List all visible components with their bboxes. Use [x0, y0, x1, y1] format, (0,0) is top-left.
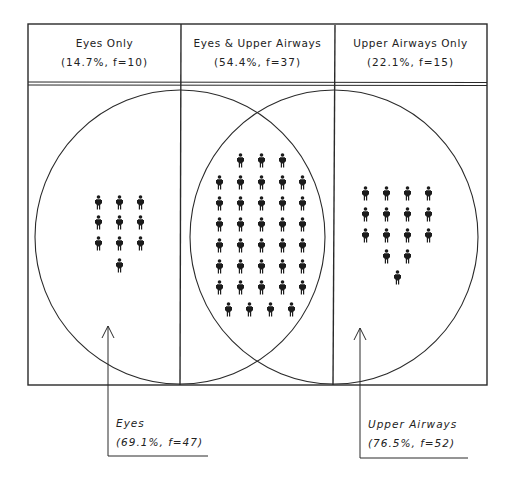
- header-stat: (14.7%, f=10): [28, 56, 181, 68]
- header-title: Eyes Only: [28, 37, 181, 49]
- person-icon: [237, 280, 244, 295]
- person-icon: [299, 259, 306, 274]
- person-icon: [299, 280, 306, 295]
- person-icon: [279, 196, 286, 211]
- person-icon: [279, 280, 286, 295]
- person-icon: [425, 186, 432, 201]
- person-icon: [258, 153, 265, 168]
- person-icon: [383, 186, 390, 201]
- person-icon: [279, 259, 286, 274]
- header-airways-only: Upper Airways Only (22.1%, f=15): [334, 24, 487, 82]
- person-icon: [279, 217, 286, 232]
- callout-label: Upper Airways: [368, 415, 457, 434]
- header-title: Eyes & Upper Airways: [181, 37, 334, 49]
- person-icon: [237, 238, 244, 253]
- person-icon: [279, 175, 286, 190]
- person-icon: [116, 195, 123, 210]
- person-icon: [237, 175, 244, 190]
- person-icon: [216, 238, 223, 253]
- person-icon: [394, 270, 401, 285]
- person-icon: [299, 196, 306, 211]
- person-icon: [299, 238, 306, 253]
- person-icon: [237, 259, 244, 274]
- header-stat: (22.1%, f=15): [334, 56, 487, 68]
- person-icon: [216, 280, 223, 295]
- callout-label: Eyes: [116, 414, 203, 433]
- eyes-callout: Eyes (69.1%, f=47): [116, 414, 203, 452]
- person-icon: [237, 217, 244, 232]
- person-icon: [95, 236, 102, 251]
- person-icon: [237, 153, 244, 168]
- person-icon: [216, 175, 223, 190]
- person-icon: [258, 280, 265, 295]
- person-icon: [137, 195, 144, 210]
- person-icon: [137, 215, 144, 230]
- person-icon: [258, 217, 265, 232]
- callout-stat: (76.5%, f=52): [368, 434, 457, 453]
- header-rule-top: [28, 82, 487, 83]
- person-icon: [404, 207, 411, 222]
- person-icon: [279, 238, 286, 253]
- person-icon: [383, 207, 390, 222]
- person-icon: [95, 195, 102, 210]
- callout-stat: (69.1%, f=47): [116, 433, 203, 452]
- upper-airways-callout: Upper Airways (76.5%, f=52): [368, 415, 457, 453]
- person-icon: [362, 186, 369, 201]
- person-icon: [258, 259, 265, 274]
- person-icon: [116, 215, 123, 230]
- header-rule-bottom: [28, 85, 487, 86]
- person-icon: [258, 175, 265, 190]
- header-stat: (54.4%, f=37): [181, 56, 334, 68]
- person-icon: [258, 196, 265, 211]
- person-icon: [95, 215, 102, 230]
- person-icon: [225, 302, 232, 317]
- person-icon: [216, 259, 223, 274]
- person-icon: [383, 228, 390, 243]
- person-icon: [246, 302, 253, 317]
- person-icon: [288, 302, 295, 317]
- person-icon: [279, 153, 286, 168]
- person-icon: [362, 228, 369, 243]
- person-icon: [267, 302, 274, 317]
- person-icon: [383, 249, 390, 264]
- person-icon: [237, 196, 244, 211]
- person-icon: [404, 249, 411, 264]
- header-eyes-only: Eyes Only (14.7%, f=10): [28, 24, 181, 82]
- person-icon: [404, 228, 411, 243]
- person-icon: [362, 207, 369, 222]
- person-icon: [404, 186, 411, 201]
- person-icon: [116, 236, 123, 251]
- person-icon: [299, 217, 306, 232]
- person-icon: [116, 258, 123, 273]
- header-title: Upper Airways Only: [334, 37, 487, 49]
- person-icon: [216, 217, 223, 232]
- person-icon: [137, 236, 144, 251]
- person-icon: [216, 196, 223, 211]
- person-icon: [258, 238, 265, 253]
- person-icon: [425, 207, 432, 222]
- person-icon: [425, 228, 432, 243]
- venn-diagram: Eyes Only (14.7%, f=10) Eyes & Upper Air…: [0, 0, 511, 478]
- person-icon: [299, 175, 306, 190]
- header-both: Eyes & Upper Airways (54.4%, f=37): [181, 24, 334, 82]
